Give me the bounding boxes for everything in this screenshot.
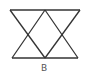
figure-label: B (39, 63, 49, 73)
